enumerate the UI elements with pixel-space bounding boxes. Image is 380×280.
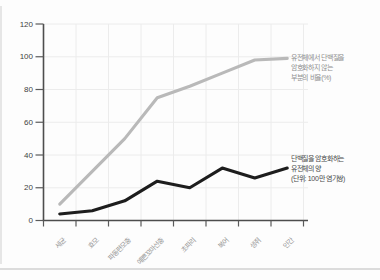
annotation-coding-amount: 단백질을 암호화하는 유전체의 양 (단위: 100만 염기쌍)	[291, 154, 345, 184]
annotation-noncoding-line3: 부분의 비율(%)	[291, 73, 344, 83]
y-tick-label: 100	[20, 52, 34, 61]
annotation-coding-line3: (단위: 100만 염기쌍)	[291, 174, 345, 184]
gridlines	[44, 24, 309, 221]
line-chart: 020406080100120세균효모파동편모충예쁜꼬마선충초파리복어생쥐인간	[0, 0, 380, 280]
x-axis-ticks: 세균효모파동편모충예쁜꼬마선충초파리복어생쥐인간	[44, 221, 304, 267]
y-tick-label: 60	[24, 118, 33, 127]
annotation-noncoding-line1: 유전체에서 단백질을	[291, 53, 344, 63]
page-edge-bottom	[0, 268, 380, 270]
y-tick-label: 80	[24, 85, 33, 94]
annotation-coding-line1: 단백질을 암호화하는	[291, 154, 345, 164]
x-category-label: 효모	[86, 236, 100, 250]
page-edge-left	[0, 6, 2, 264]
chart-canvas: 020406080100120세균효모파동편모충예쁜꼬마선충초파리복어생쥐인간 …	[0, 0, 380, 280]
y-tick-label: 120	[20, 20, 34, 29]
x-category-label: 인간	[281, 235, 296, 250]
x-category-label: 예쁜꼬마선충	[135, 235, 166, 266]
annotation-noncoding-line2: 암호화하지 않는	[291, 63, 344, 73]
annotation-noncoding-ratio: 유전체에서 단백질을 암호화하지 않는 부분의 비율(%)	[291, 53, 344, 83]
y-tick-label: 20	[24, 183, 33, 192]
y-axis-ticks: 020406080100120	[20, 20, 44, 226]
x-category-label: 복어	[216, 236, 231, 251]
x-category-label: 초파리	[179, 236, 198, 255]
annotation-coding-line2: 유전체의 양	[291, 164, 345, 174]
x-category-label: 파동편모충	[106, 235, 133, 262]
y-tick-label: 0	[29, 216, 34, 225]
x-category-label: 생쥐	[248, 236, 263, 251]
x-category-label: 세균	[53, 235, 68, 250]
y-tick-label: 40	[24, 151, 33, 160]
